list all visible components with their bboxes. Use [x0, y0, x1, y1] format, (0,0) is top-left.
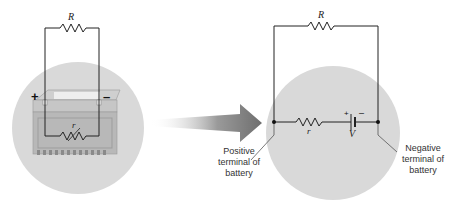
- right-label-R: R: [318, 9, 324, 20]
- label-line: Positive: [204, 146, 274, 157]
- negative-terminal-node: [376, 120, 380, 124]
- label-line: terminal of: [204, 157, 274, 168]
- battery-plus-sign: +: [344, 109, 349, 118]
- left-plus-sign: +: [31, 89, 39, 104]
- transform-arrow: [150, 104, 262, 142]
- left-label-R: R: [68, 11, 74, 22]
- left-minus-sign: –: [103, 89, 110, 104]
- label-line: battery: [394, 165, 452, 176]
- positive-terminal-node: [272, 120, 276, 124]
- battery-minus-sign: –: [359, 108, 364, 118]
- right-circle: [266, 66, 400, 200]
- right-label-V: V: [349, 128, 355, 139]
- positive-terminal-label: Positive terminal of battery: [204, 146, 274, 179]
- label-line: terminal of: [394, 154, 452, 165]
- label-line: Negative: [394, 143, 452, 154]
- negative-terminal-label: Negative terminal of battery: [394, 143, 452, 176]
- right-label-r: r: [307, 126, 311, 136]
- label-line: battery: [204, 168, 274, 179]
- left-label-r: r: [72, 120, 76, 130]
